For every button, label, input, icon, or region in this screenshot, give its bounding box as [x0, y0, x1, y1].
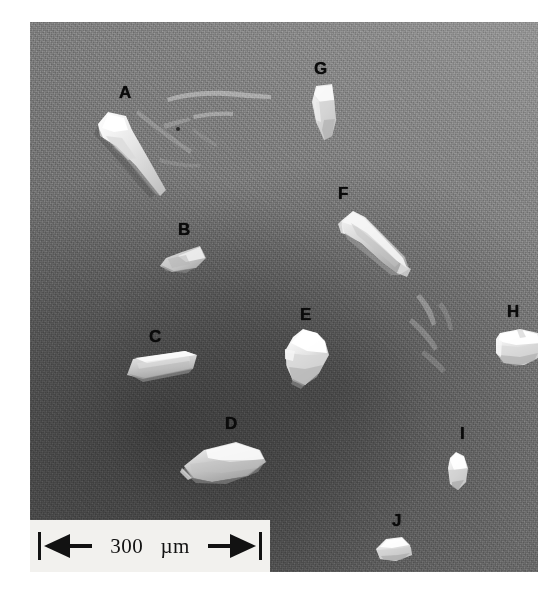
- figure-root: A B: [0, 0, 555, 604]
- particle-label-a: A: [119, 84, 131, 101]
- particle-label-e: E: [300, 306, 311, 323]
- particle-label-b: B: [178, 221, 190, 238]
- scale-bar: 300 µm: [30, 520, 270, 572]
- sem-micrograph-image: A B: [30, 22, 538, 572]
- particle-label-d: D: [225, 415, 237, 432]
- particle-label-c: C: [149, 328, 161, 345]
- scale-bar-label: 300 µm: [36, 529, 264, 563]
- particle-label-i: I: [460, 425, 465, 442]
- particle-label-f: F: [338, 185, 348, 202]
- particle-label-j: J: [392, 512, 401, 529]
- substrate-background: [30, 22, 538, 572]
- particle-label-g: G: [314, 60, 327, 77]
- particle-label-h: H: [507, 303, 519, 320]
